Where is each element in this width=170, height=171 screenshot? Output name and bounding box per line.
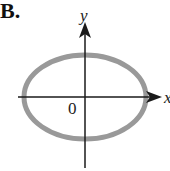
origin-label: 0 (68, 99, 77, 119)
coordinate-diagram (0, 0, 170, 171)
